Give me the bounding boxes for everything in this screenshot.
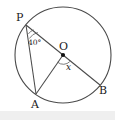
circle-diagram-canvas: P O A B 40° x <box>0 0 115 120</box>
point-label-b: B <box>99 84 107 97</box>
point-label-a: A <box>30 98 40 111</box>
angle-label-x: x <box>66 62 71 72</box>
angle-arc-at-p-inner <box>28 30 33 34</box>
point-label-p: P <box>16 11 24 24</box>
point-label-o: O <box>59 40 68 53</box>
segment-ao-radius <box>36 55 63 94</box>
angle-label-40-degrees: 40° <box>28 38 42 47</box>
segment-pa-chord <box>26 25 36 94</box>
center-point-dot <box>61 53 65 57</box>
geometry-figure: P O A B 40° x <box>0 0 115 120</box>
